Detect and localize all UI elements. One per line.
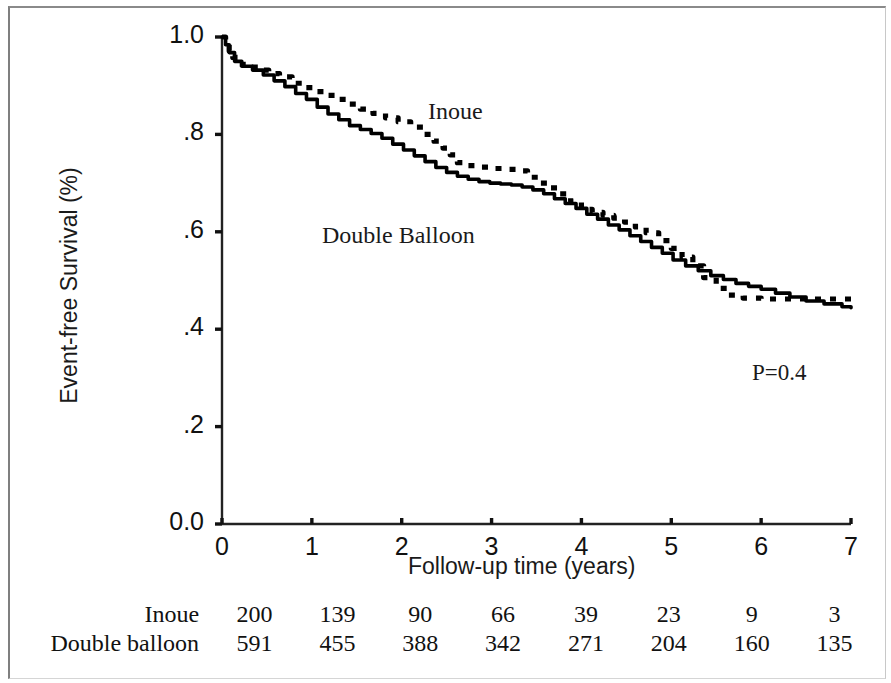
- risk-table-row: Double balloon591455388342271204160135: [14, 629, 876, 658]
- risk-value-cell: 90: [379, 600, 462, 629]
- risk-value-cell: 388: [379, 629, 462, 658]
- series-label-inoue: Inoue: [428, 98, 483, 125]
- y-tick-label: .8: [144, 117, 204, 146]
- risk-value-cell: 200: [213, 600, 296, 629]
- figure-root: Event-free Survival (%) Follow-up time (…: [0, 0, 891, 683]
- y-tick-label: 1.0: [144, 20, 204, 49]
- y-tick-label: 0.0: [144, 507, 204, 536]
- risk-value-cell: 23: [627, 600, 710, 629]
- risk-row-label: Double balloon: [14, 629, 213, 658]
- numbers-at-risk-body: Inoue2001399066392393Double balloon59145…: [14, 600, 876, 658]
- x-tick-label: 2: [382, 532, 422, 561]
- risk-value-cell: 3: [793, 600, 876, 629]
- y-tick-label: .6: [144, 215, 204, 244]
- series-line-inoue: [222, 37, 851, 299]
- series-line-double-balloon: [222, 37, 851, 308]
- x-tick-label: 4: [561, 532, 601, 561]
- risk-value-cell: 135: [793, 629, 876, 658]
- risk-value-cell: 160: [710, 629, 793, 658]
- y-tick-label: .4: [144, 312, 204, 341]
- p-value-annotation: P=0.4: [752, 360, 807, 386]
- x-tick-label: 1: [292, 532, 332, 561]
- numbers-at-risk-table: Inoue2001399066392393Double balloon59145…: [14, 600, 876, 658]
- x-tick-label: 3: [472, 532, 512, 561]
- risk-value-cell: 39: [545, 600, 628, 629]
- risk-value-cell: 591: [213, 629, 296, 658]
- axes: [222, 37, 851, 524]
- risk-value-cell: 9: [710, 600, 793, 629]
- risk-row-label: Inoue: [14, 600, 213, 629]
- risk-value-cell: 139: [296, 600, 379, 629]
- y-tick-label: .2: [144, 410, 204, 439]
- risk-value-cell: 271: [545, 629, 628, 658]
- risk-value-cell: 66: [462, 600, 545, 629]
- x-tick-label: 6: [741, 532, 781, 561]
- risk-table-row: Inoue2001399066392393: [14, 600, 876, 629]
- data-series-group: [222, 37, 851, 308]
- x-tick-label: 7: [831, 532, 871, 561]
- x-tick-label: 5: [651, 532, 691, 561]
- risk-value-cell: 204: [627, 629, 710, 658]
- x-tick-label: 0: [202, 532, 242, 561]
- survival-plot: [0, 0, 891, 600]
- y-axis-title: Event-free Survival (%): [56, 121, 83, 451]
- risk-value-cell: 342: [462, 629, 545, 658]
- series-label-double-balloon: Double Balloon: [322, 222, 475, 249]
- risk-value-cell: 455: [296, 629, 379, 658]
